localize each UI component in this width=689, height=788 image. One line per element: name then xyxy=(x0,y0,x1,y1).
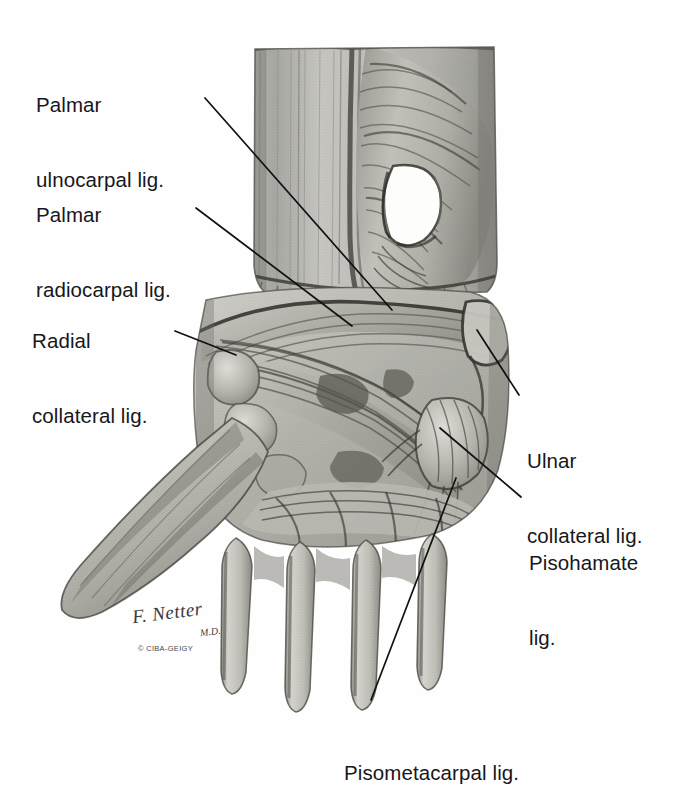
forearm-region xyxy=(250,44,502,301)
signature-name: F. Netter xyxy=(131,598,204,628)
signature-credential: M.D. xyxy=(199,625,221,638)
label-line: Pisometacarpal lig. xyxy=(344,760,519,785)
label-line: Radial xyxy=(32,328,147,353)
label-radial-collateral-lig: Radial collateral lig. xyxy=(32,278,147,478)
label-pisohamate-lig: Pisohamate lig. xyxy=(529,500,638,700)
label-pisometacarpal-lig: Pisometacarpal lig. xyxy=(344,710,519,788)
label-line: Ulnar xyxy=(527,448,642,473)
label-line: Palmar xyxy=(36,202,171,227)
metacarpal-shafts xyxy=(221,534,447,712)
carpal-ligament-complex xyxy=(180,275,520,560)
label-line: Pisohamate xyxy=(529,550,638,575)
label-line: collateral lig. xyxy=(32,403,147,428)
label-line: Palmar xyxy=(36,92,164,117)
artist-signature: F. Netter M.D. © CIBA-GEIGY xyxy=(128,598,248,660)
label-line: lig. xyxy=(529,625,638,650)
signature-copyright: © CIBA-GEIGY xyxy=(138,644,193,653)
